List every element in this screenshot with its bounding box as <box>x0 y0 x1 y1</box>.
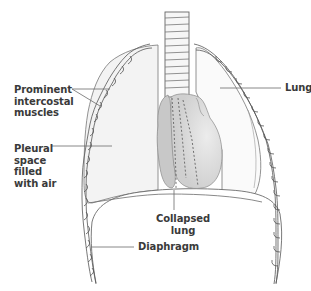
label-lung: Lung <box>285 82 311 94</box>
label-intercostal-muscles: Prominent intercostal muscles <box>14 84 74 119</box>
label-pleural-space: Pleural space filled with air <box>14 143 56 189</box>
label-diaphragm: Diaphragm <box>138 241 199 253</box>
label-collapsed-lung: Collapsed lung <box>152 213 214 236</box>
trachea <box>165 12 189 97</box>
